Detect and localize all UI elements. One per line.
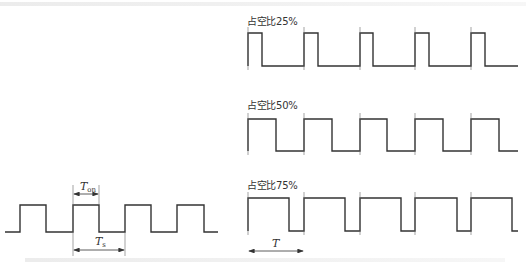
duty-50-waveform	[248, 113, 518, 155]
waveforms: Ton Ts	[0, 0, 526, 264]
duty-25-waveform	[248, 27, 518, 70]
pwm-duty-cycle-figure: 占空比25% 占空比50% 占空比75% Ton Ts	[0, 0, 526, 264]
duty-75-waveform: T	[248, 192, 518, 251]
ts-label: Ts	[95, 235, 106, 249]
period-label: T	[272, 237, 281, 250]
left-pwm-waveform: Ton Ts	[5, 180, 218, 256]
ton-label: Ton	[80, 180, 97, 194]
